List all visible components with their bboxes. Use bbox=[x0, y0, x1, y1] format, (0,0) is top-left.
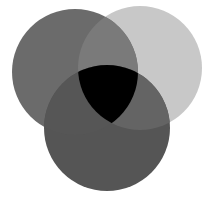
venn-svg bbox=[0, 0, 209, 198]
venn-diagram bbox=[0, 0, 209, 198]
